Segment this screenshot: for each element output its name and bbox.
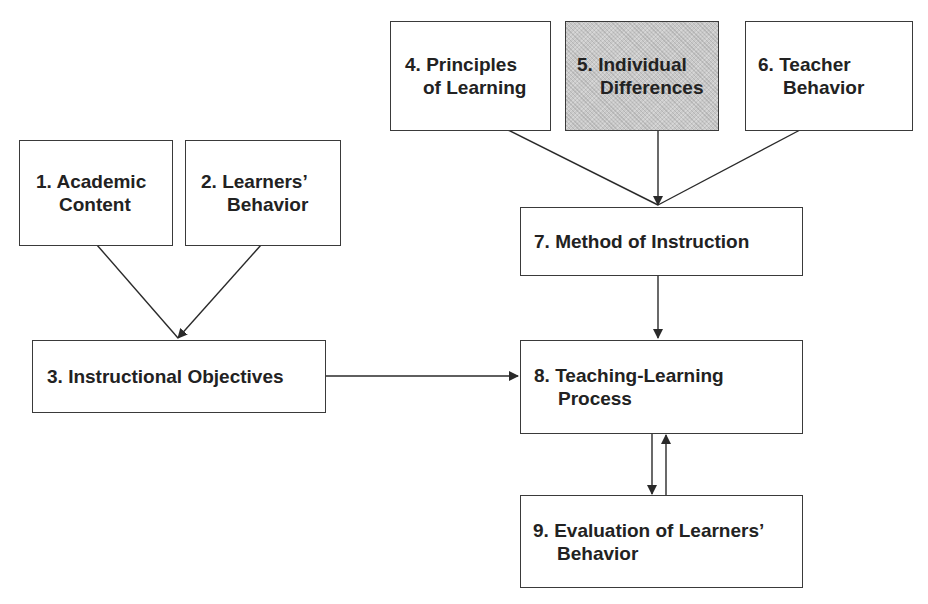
box-1-line1: 1. Academic	[36, 170, 146, 193]
box-7-number: 7.	[534, 231, 550, 252]
box-2-title: Learners’	[222, 171, 308, 192]
box-9-subtitle: Behavior	[533, 542, 764, 565]
arrow-2-to-3	[178, 245, 261, 338]
box-instructional-objectives: 3. Instructional Objectives	[32, 340, 326, 413]
box-1-title: Academic	[56, 171, 146, 192]
box-method-of-instruction: 7. Method of Instruction	[520, 207, 803, 276]
box-9-title: Evaluation of Learners’	[554, 520, 764, 541]
box-6-subtitle: Behavior	[758, 76, 864, 99]
box-9-number: 9.	[533, 520, 549, 541]
box-8-number: 8.	[534, 365, 550, 386]
box-individual-differences: 5. Individual Differences	[565, 21, 719, 131]
box-5-subtitle: Differences	[577, 76, 704, 99]
box-4-subtitle: of Learning	[405, 76, 526, 99]
box-8-title: Teaching-Learning	[555, 365, 724, 386]
box-1-subtitle: Content	[36, 193, 146, 216]
box-1-number: 1.	[36, 171, 52, 192]
arrow-4-to-7	[508, 130, 658, 205]
box-5-title: Individual	[598, 54, 687, 75]
box-teacher-behavior: 6. Teacher Behavior	[745, 21, 913, 131]
box-academic-content: 1. Academic Content	[19, 140, 173, 246]
box-evaluation-of-learners-behavior: 9. Evaluation of Learners’ Behavior	[520, 495, 803, 588]
box-2-subtitle: Behavior	[201, 193, 308, 216]
box-9-line1: 9. Evaluation of Learners’	[533, 519, 764, 542]
box-4-line1: 4. Principles	[405, 53, 526, 76]
box-principles-of-learning: 4. Principles of Learning	[390, 21, 551, 131]
box-2-number: 2.	[201, 171, 217, 192]
arrow-1-to-3	[97, 245, 178, 338]
box-5-line1: 5. Individual	[577, 53, 704, 76]
box-2-line1: 2. Learners’	[201, 170, 308, 193]
box-8-subtitle: Process	[534, 387, 724, 410]
box-6-title: Teacher	[779, 54, 850, 75]
box-6-number: 6.	[758, 54, 774, 75]
arrow-6-to-7	[658, 130, 800, 205]
box-3-line1: 3. Instructional Objectives	[47, 365, 284, 388]
instructional-model-diagram: 1. Academic Content 2. Learners’ Behavio…	[0, 0, 928, 604]
box-3-number: 3.	[47, 366, 63, 387]
box-teaching-learning-process: 8. Teaching-Learning Process	[520, 340, 803, 434]
box-7-title: Method of Instruction	[555, 231, 749, 252]
box-4-number: 4.	[405, 54, 421, 75]
box-learners-behavior: 2. Learners’ Behavior	[185, 140, 341, 246]
box-7-line1: 7. Method of Instruction	[534, 230, 749, 253]
box-8-line1: 8. Teaching-Learning	[534, 364, 724, 387]
box-4-title: Principles	[426, 54, 517, 75]
box-5-number: 5.	[577, 54, 593, 75]
box-3-title: Instructional Objectives	[68, 366, 283, 387]
box-6-line1: 6. Teacher	[758, 53, 864, 76]
